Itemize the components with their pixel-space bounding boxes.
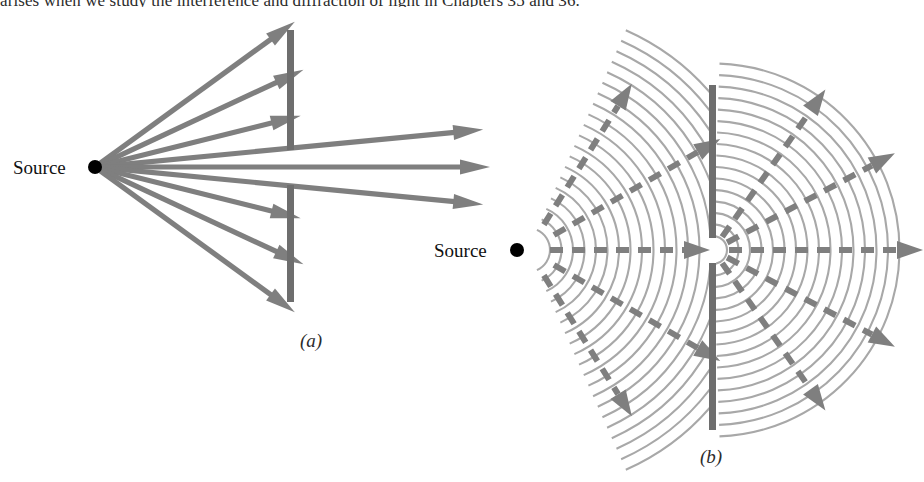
ray-through-slit-center-head <box>460 160 490 175</box>
barrier-lower-segment-b <box>709 263 716 430</box>
source-point-panel-b <box>510 243 524 257</box>
barrier-upper-segment-b <box>709 85 716 238</box>
ray-diffracted-ray-up-55-shaft <box>722 111 810 237</box>
source-label-panel-a: Source <box>13 157 66 179</box>
ray-incident-ray-center-head <box>684 241 710 259</box>
panel-caption-b: (b) <box>700 446 722 468</box>
diffracted-wavefront-arc-1 <box>713 236 727 264</box>
ray-incident-ray-down-30-head <box>693 340 720 361</box>
panel-b-group <box>510 30 923 469</box>
ray-blocked-lower-1-head <box>270 204 301 219</box>
panel-a-group <box>88 22 490 312</box>
ray-through-slit-lower-head <box>453 194 484 209</box>
source-point-panel-a <box>88 160 102 174</box>
source-label-panel-b: Source <box>434 240 487 262</box>
ray-blocked-upper-3-head <box>270 116 301 131</box>
figure-root: arises when we study the interference an… <box>0 0 924 482</box>
ray-diffracted-ray-down-55-shaft <box>722 263 810 389</box>
ray-through-slit-upper-head <box>453 125 484 140</box>
barrier-upper-segment-a <box>287 30 294 150</box>
ray-diffracted-ray-up-28-shaft <box>727 165 872 242</box>
diffracted-wavefront-arc-5 <box>715 190 773 310</box>
incident-wavefront-arc-1 <box>537 230 550 270</box>
ray-diffracted-ray-down-28-shaft <box>727 258 872 335</box>
panel-caption-a: (a) <box>300 330 322 352</box>
barrier-lower-segment-a <box>287 185 294 302</box>
ray-incident-ray-up-30-head <box>693 139 720 160</box>
ray-diffracted-ray-center-head <box>897 241 923 259</box>
